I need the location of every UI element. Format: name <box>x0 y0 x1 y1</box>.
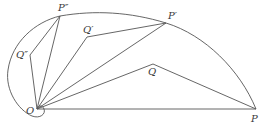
segment-Q-prime-P-prime <box>87 23 166 37</box>
label-O: O <box>26 106 34 116</box>
curve <box>8 13 256 117</box>
geometric-diagram: O P P′ P″ Q Q′ Q″ <box>0 0 266 128</box>
segment-O-Q-double-prime <box>30 55 37 109</box>
label-P-prime: P′ <box>168 11 177 21</box>
label-P: P <box>251 114 258 124</box>
segment-Q-P <box>153 64 256 109</box>
segment-O-P-double-prime <box>37 16 60 109</box>
diagram-canvas <box>0 0 266 128</box>
label-Q-prime: Q′ <box>83 25 93 35</box>
label-Q-double-prime: Q″ <box>16 50 28 60</box>
label-P-double-prime: P″ <box>58 3 68 13</box>
segment-O-Q-prime <box>37 37 87 109</box>
label-Q: Q <box>148 67 156 77</box>
